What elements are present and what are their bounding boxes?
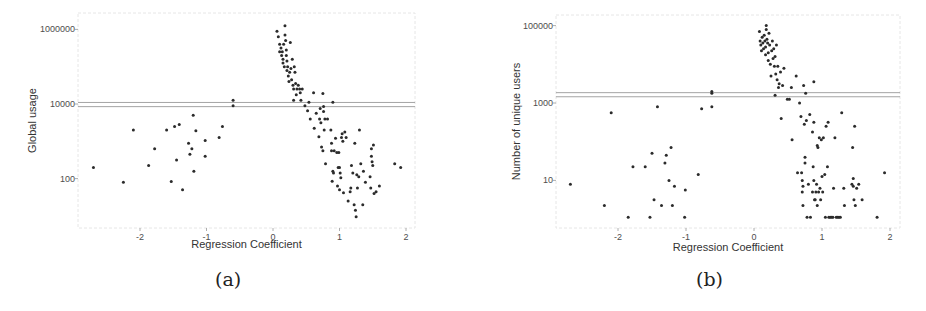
data-point [289,41,292,44]
data-point [318,117,321,120]
data-point [320,145,323,148]
data-point [312,91,315,94]
data-point [278,50,281,53]
data-point [293,71,296,74]
data-point [330,142,333,145]
data-point [329,129,332,132]
data-point [802,84,805,87]
data-point [839,216,842,219]
data-point [132,129,135,132]
y-tick-label: 10 [543,175,553,185]
data-point [840,111,843,114]
data-point [357,175,360,178]
data-point [399,166,402,169]
data-point [323,117,326,120]
scatter-plot-a: 100100001000000-2-1012Regression Coeffic… [0,0,463,311]
data-point [790,86,793,89]
data-point [285,60,288,63]
data-point [289,67,292,70]
data-point [294,82,297,85]
data-point [278,43,281,46]
data-point [799,115,802,118]
data-point [303,104,306,107]
data-point [356,186,359,189]
data-point [569,183,572,186]
data-point [299,99,302,102]
data-point [827,121,830,124]
data-point [334,137,337,140]
y-axis-title: Global usage [26,88,38,153]
data-point [779,71,782,74]
y-tick-label: 100000 [523,21,553,31]
data-point [861,198,864,201]
data-point [349,186,352,189]
data-point [218,136,221,139]
data-point [362,170,365,173]
data-point [700,107,703,110]
data-point [331,101,334,104]
data-point [831,216,834,219]
x-axis-title: Regression Coefficient [673,241,783,253]
data-point [764,53,767,56]
data-point [331,180,334,183]
data-point [776,78,779,81]
data-point [782,67,785,70]
x-tick-label: 2 [403,232,408,242]
plot-frame [556,15,900,228]
data-point [288,71,291,74]
data-point [648,216,651,219]
data-point [295,88,298,91]
x-tick-label: 1 [819,232,824,242]
data-point [710,90,713,93]
data-point [338,166,341,169]
data-point [181,188,184,191]
data-point [801,179,804,182]
data-point [855,187,858,190]
data-point [321,149,324,152]
data-point [825,125,828,128]
data-point [883,171,886,174]
data-point [823,173,826,176]
data-point [336,185,339,188]
data-point [819,198,822,201]
data-point [173,125,176,128]
data-point [283,65,286,68]
data-point [771,40,774,43]
data-point [821,175,824,178]
data-point [857,183,860,186]
data-point [187,142,190,145]
data-point [852,198,855,201]
data-point [768,43,771,46]
data-point [775,43,778,46]
data-point [322,105,325,108]
data-point [290,78,293,81]
data-point [774,55,777,58]
data-point [339,176,342,179]
data-point [852,177,855,180]
data-point [190,147,193,150]
data-point [804,161,807,164]
data-point [165,129,168,132]
data-point [291,58,294,61]
y-tick-label: 10000 [50,99,75,109]
data-point [697,173,700,176]
data-point [663,161,666,164]
data-point [780,117,783,120]
data-point [769,63,772,66]
data-point [283,24,286,27]
data-point [375,190,378,193]
data-point [631,165,634,168]
data-point [803,123,806,126]
data-point [812,80,815,83]
data-point [293,65,296,68]
data-point [684,189,687,192]
data-point [321,92,324,95]
data-point [170,180,173,183]
data-point [673,185,676,188]
data-point [876,216,879,219]
data-point [853,125,856,128]
data-point [192,114,195,117]
data-point [774,72,777,75]
data-point [354,209,357,212]
data-point [801,191,804,194]
